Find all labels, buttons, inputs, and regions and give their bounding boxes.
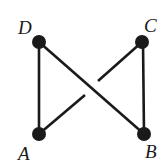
node-d xyxy=(32,35,46,49)
graph-diagram: D C A B xyxy=(0,0,167,164)
label-b: B xyxy=(145,141,157,162)
edge-a-c-lower-segment xyxy=(39,95,85,134)
node-a xyxy=(32,127,46,141)
node-b xyxy=(137,127,151,141)
label-c: C xyxy=(144,15,157,36)
edge-c-b xyxy=(143,42,144,134)
edge-a-c-upper-segment xyxy=(98,42,142,81)
node-c xyxy=(135,35,149,49)
label-a: A xyxy=(16,143,30,164)
label-d: D xyxy=(17,17,32,38)
